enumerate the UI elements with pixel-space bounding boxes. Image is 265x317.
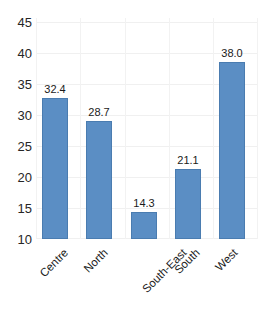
y-tick-label-40: 40: [18, 47, 32, 60]
bar-group-centre: 32.4: [42, 18, 68, 239]
y-tick-label-10: 10: [18, 233, 32, 246]
bar-south-east[interactable]: [131, 212, 157, 239]
y-tick-label-30: 30: [18, 109, 32, 122]
bar-value-south-east: 14.3: [133, 198, 154, 209]
y-tick-label-35: 35: [18, 78, 32, 91]
y-tick-label-25: 25: [18, 140, 32, 153]
bars-layer: 32.4 28.7 14.3 21.1 38.0: [36, 18, 258, 239]
x-axis: Centre North South-East South West: [36, 243, 258, 315]
bar-north[interactable]: [86, 121, 112, 239]
y-axis: 45 40 35 30 25 20 15 10: [0, 0, 36, 260]
bar-group-west: 38.0: [219, 18, 245, 239]
bar-value-north: 28.7: [88, 107, 109, 118]
x-tick-label-west: West: [214, 247, 241, 274]
bar-value-centre: 32.4: [44, 84, 65, 95]
y-tick-label-20: 20: [18, 171, 32, 184]
x-tick-label-north: North: [82, 247, 110, 275]
bar-value-west: 38.0: [221, 48, 242, 59]
bar-centre[interactable]: [42, 98, 68, 239]
bar-west[interactable]: [219, 62, 245, 239]
x-tick-label-centre: Centre: [38, 247, 71, 280]
bar-group-south: 21.1: [175, 18, 201, 239]
bar-south[interactable]: [175, 169, 201, 239]
bar-group-south-east: 14.3: [131, 18, 157, 239]
y-tick-label-15: 15: [18, 202, 32, 215]
bar-value-south: 21.1: [177, 155, 198, 166]
bar-group-north: 28.7: [86, 18, 112, 239]
bar-chart: 45 40 35 30 25 20 15 10 32.4 28.7 14.3 2…: [0, 0, 265, 317]
y-tick-label-45: 45: [18, 16, 32, 29]
